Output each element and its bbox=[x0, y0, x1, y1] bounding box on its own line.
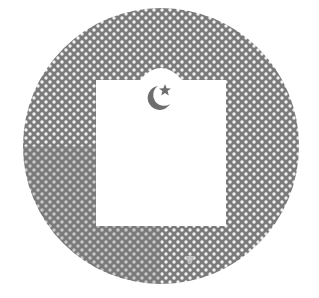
emblem-figure bbox=[0, 0, 319, 298]
emblem-svg bbox=[0, 0, 319, 298]
white-panel bbox=[96, 68, 226, 226]
